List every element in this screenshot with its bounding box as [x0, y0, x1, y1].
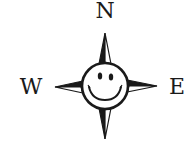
west-spike-icon: [55, 81, 83, 93]
east-spike-icon: [127, 80, 157, 92]
compass-star-icon: [0, 0, 190, 148]
smiley-face-icon: [82, 63, 128, 109]
left-eye-icon: [98, 72, 102, 79]
south-spike-icon: [99, 108, 111, 139]
right-eye-icon: [109, 73, 113, 80]
compass-rose: N W E: [0, 0, 190, 148]
north-spike-icon: [99, 33, 111, 64]
